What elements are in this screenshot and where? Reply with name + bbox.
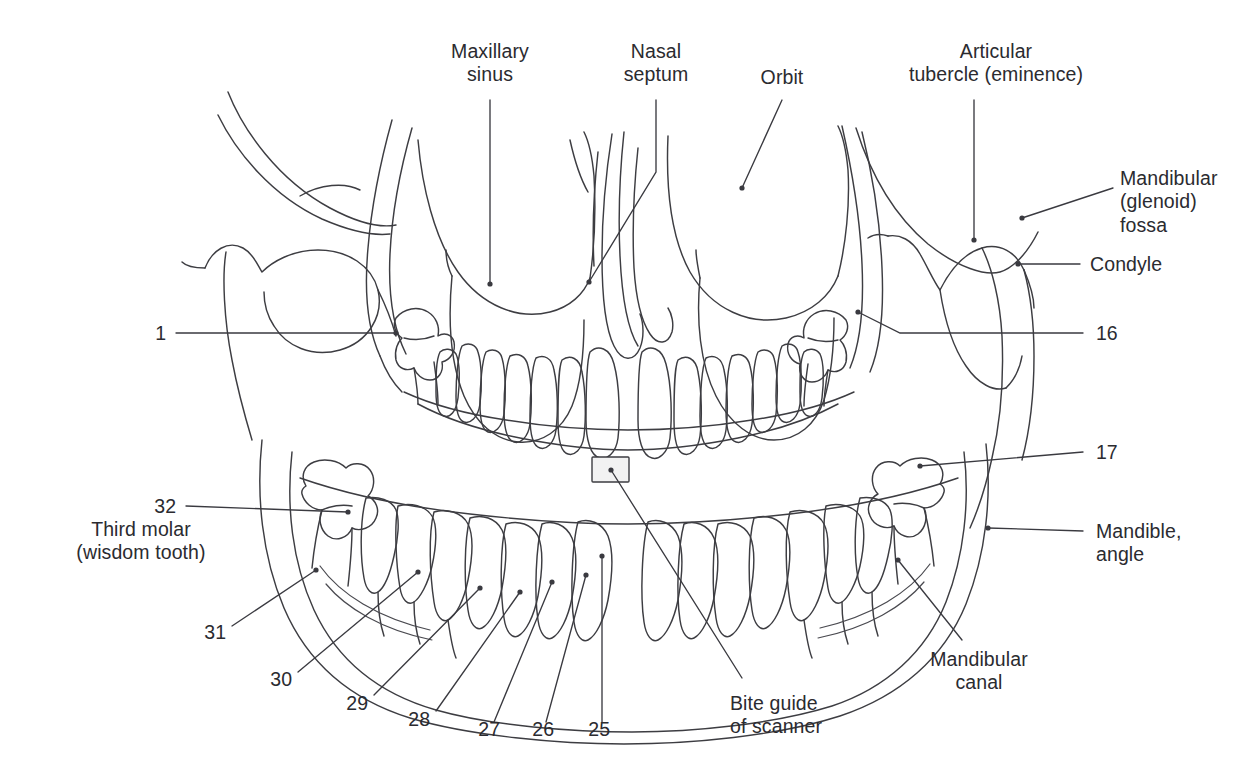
maxillary-sinus-left (418, 132, 595, 442)
leader-tooth-16 (855, 309, 1083, 333)
upper-left-third-molar (394, 309, 454, 404)
label-tooth-29: 29 (346, 692, 368, 714)
left-ramus (367, 120, 413, 392)
label-tooth-31: 31 (204, 621, 226, 643)
anatomy-line-drawing (0, 0, 1244, 775)
label-mandibular-fossa: Mandibular (glenoid) fossa (1120, 167, 1217, 237)
nasal-septum (570, 132, 673, 358)
label-tooth-28: 28 (408, 708, 430, 730)
leader-tooth-30 (298, 569, 421, 672)
label-tooth-30: 30 (270, 668, 292, 690)
label-tooth-17: 17 (1096, 441, 1118, 463)
leader-tooth-27 (494, 579, 555, 722)
leader-tooth-25 (599, 553, 604, 722)
label-mandibular-canal: Mandibular canal (930, 648, 1027, 695)
lower-teeth (361, 498, 892, 659)
right-condyle-ramus (842, 126, 1034, 528)
leader-tooth-28 (436, 589, 523, 711)
upper-teeth (436, 344, 823, 458)
right-glenoid-fossa (856, 128, 1038, 389)
mandibular-canal (320, 564, 930, 640)
leader-orbit (739, 100, 782, 191)
leader-mandible-angle (985, 525, 1083, 531)
label-tooth-26: 26 (532, 718, 554, 740)
label-mandible-angle: Mandible, angle (1096, 520, 1181, 567)
leader-tooth-31 (232, 567, 319, 626)
leader-tooth-29 (374, 585, 483, 695)
mandible-body (260, 440, 988, 744)
leader-maxillary-sinus (487, 100, 492, 287)
label-tooth-1: 1 (155, 322, 166, 344)
leader-condyle (1015, 261, 1080, 266)
left-zygomatic-arc (218, 92, 396, 234)
label-nasal-septum: Nasal septum (624, 40, 689, 87)
leader-mandibular-fossa (1019, 188, 1113, 221)
leader-bite-guide (608, 467, 742, 678)
label-orbit: Orbit (761, 66, 804, 89)
label-tooth-32: 32 (154, 495, 176, 517)
label-maxillary-sinus: Maxillary sinus (451, 40, 529, 87)
left-condyle-group (182, 245, 396, 440)
label-bite-guide: Bite guide of scanner (730, 692, 822, 739)
label-tooth-16: 16 (1096, 322, 1118, 344)
maxillary-sinus-right (668, 126, 849, 440)
leader-nasal-septum (586, 100, 656, 285)
leader-mandibular-canal (895, 557, 962, 640)
label-tooth-27: 27 (478, 718, 500, 740)
leader-articular-tubercle (971, 100, 976, 243)
leader-tooth-26 (546, 572, 589, 722)
leader-tooth-32 (186, 506, 351, 515)
lower-left-third-molar (302, 460, 378, 586)
label-condyle: Condyle (1090, 253, 1162, 276)
figure-canvas: Maxillary sinus Nasal septum Orbit Artic… (0, 0, 1244, 775)
lower-right-third-molar (868, 458, 944, 584)
label-articular-tubercle: Articular tubercle (eminence) (909, 40, 1083, 87)
label-third-molar: Third molar (wisdom tooth) (76, 518, 205, 565)
upper-right-third-molar (788, 311, 848, 406)
label-tooth-25: 25 (588, 718, 610, 740)
leader-tooth-17 (917, 452, 1083, 469)
